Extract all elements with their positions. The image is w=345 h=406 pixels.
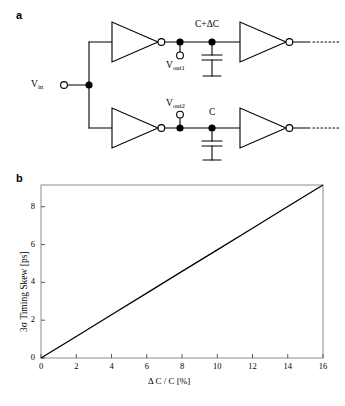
y-axis-label: 3σ Timing Skew [ps] <box>19 251 29 332</box>
x-tick-label: 4 <box>100 362 124 371</box>
y-tick-label: 8 <box>19 202 35 211</box>
figure-container: a <box>0 0 345 406</box>
x-axis-label: Δ C / C [%] <box>148 377 190 386</box>
y-tick-label: 6 <box>19 240 35 249</box>
x-tick-label: 8 <box>170 362 194 371</box>
x-tick-label: 14 <box>276 362 300 371</box>
x-tick-label: 0 <box>29 362 53 371</box>
y-tick-label: 0 <box>19 353 35 362</box>
x-tick-label: 16 <box>311 362 335 371</box>
x-tick-label: 6 <box>135 362 159 371</box>
x-tick-label: 2 <box>64 362 88 371</box>
x-tick-label: 12 <box>241 362 265 371</box>
x-tick-label: 10 <box>205 362 229 371</box>
timing-skew-plot <box>0 0 345 406</box>
